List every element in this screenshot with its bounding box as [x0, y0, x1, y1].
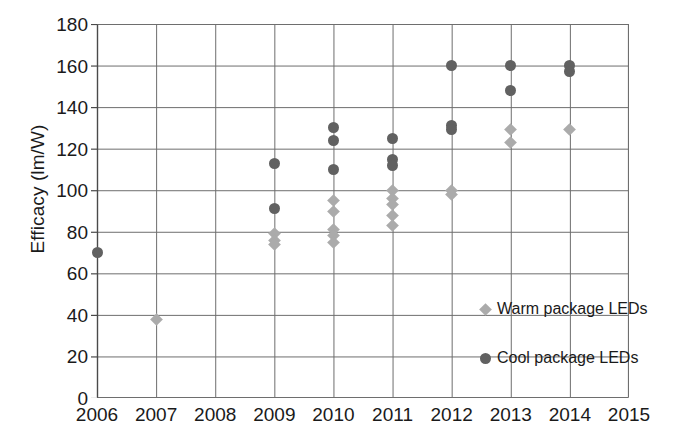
y-axis-tick-labels: 020406080100120140160180: [42, 0, 88, 444]
data-point-warm: [504, 136, 517, 149]
y-tick-label: 180: [42, 15, 88, 34]
y-tick-label: 160: [42, 57, 88, 76]
y-tick-label: 80: [42, 223, 88, 242]
legend-label-warm: Warm package LEDs: [497, 301, 648, 317]
y-tick-label: 120: [42, 140, 88, 159]
warm-diamond-marker: [479, 303, 492, 316]
y-tick-label: 40: [42, 306, 88, 325]
y-tick-label: 100: [42, 181, 88, 200]
data-point-cool: [269, 203, 280, 214]
data-point-cool: [328, 164, 339, 175]
data-point-cool: [446, 124, 457, 135]
chart-legend: Warm package LEDs Cool package LEDs: [480, 296, 670, 371]
legend-label-cool: Cool package LEDs: [497, 350, 638, 366]
cool-circle-marker: [480, 353, 491, 364]
data-point-cool: [328, 122, 339, 133]
data-point-warm: [386, 219, 399, 232]
y-tick-label: 140: [42, 98, 88, 117]
y-tick-label: 60: [42, 264, 88, 283]
data-point-cool: [328, 135, 339, 146]
data-point-warm: [564, 124, 577, 137]
data-point-cool: [269, 158, 280, 169]
data-point-warm: [327, 205, 340, 218]
data-point-warm: [504, 124, 517, 137]
data-point-cool: [505, 60, 516, 71]
x-axis-tick-labels: 2006200720082009201020112012201320142015: [0, 405, 679, 435]
data-point-cool: [564, 66, 575, 77]
x-tick-label: 2015: [594, 405, 664, 425]
data-point-warm: [150, 313, 163, 326]
data-point-cool: [387, 133, 398, 144]
legend-item-cool: Cool package LEDs: [480, 345, 670, 371]
legend-item-warm: Warm package LEDs: [480, 296, 670, 322]
data-point-cool: [505, 85, 516, 96]
data-point-cool: [92, 247, 103, 258]
y-tick-label: 20: [42, 347, 88, 366]
data-point-cool: [387, 160, 398, 171]
scatter-chart: Efficacy (lm/W) 020406080100120140160180…: [0, 0, 679, 444]
plot-area: Warm package LEDs Cool package LEDs: [97, 24, 629, 398]
data-point-cool: [446, 60, 457, 71]
